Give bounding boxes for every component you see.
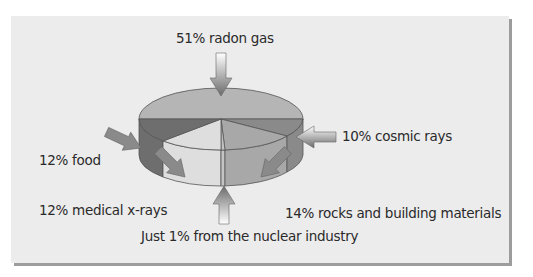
- label-rocks-building-materials: 14% rocks and building materials: [285, 205, 501, 221]
- label-nuclear-industry: Just 1% from the nuclear industry: [141, 228, 358, 244]
- label-cosmic-rays: 10% cosmic rays: [342, 128, 452, 144]
- label-food: 12% food: [39, 152, 101, 168]
- arrow-nuclear-icon: [213, 186, 235, 224]
- label-medical-x-rays: 12% medical x-rays: [39, 202, 167, 218]
- label-radon-gas: 51% radon gas: [176, 30, 274, 46]
